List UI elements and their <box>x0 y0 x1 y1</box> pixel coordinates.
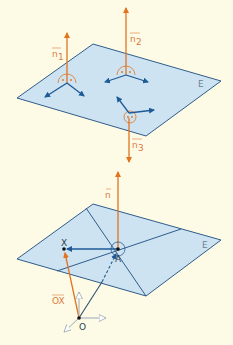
right-angle-dot <box>127 116 129 118</box>
point-x-label: X <box>61 238 67 248</box>
plane-label-e-bottom: E <box>202 240 208 250</box>
normal-n1-subscript: 1 <box>58 52 64 62</box>
top-figure: E n 1 n 2 <box>17 8 221 162</box>
normal-n3-label: n <box>132 140 138 150</box>
right-angle-dot <box>70 79 72 81</box>
normal-n2-subscript: 2 <box>136 37 142 47</box>
point-o-label: O <box>79 322 86 332</box>
diagram-svg: E n 1 n 2 <box>0 0 233 345</box>
normal-n1-label: n <box>52 49 58 59</box>
vector-ox-label: OX <box>52 296 65 306</box>
right-angle-dot <box>121 71 123 73</box>
right-angle-dot <box>131 116 133 118</box>
vector-oa-solid <box>79 282 102 318</box>
point-o <box>77 316 81 320</box>
plane-e-top <box>17 44 221 136</box>
normal-n2-label: n <box>130 34 136 44</box>
right-angle-dot <box>62 79 64 81</box>
normal-n-label: n <box>105 190 111 200</box>
point-a <box>116 247 120 251</box>
diagram-canvas: E n 1 n 2 <box>0 0 233 345</box>
right-angle-dot <box>129 71 131 73</box>
plane-label-e-top: E <box>198 79 204 89</box>
point-a-label: A <box>115 254 122 264</box>
normal-n3-subscript: 3 <box>138 143 144 153</box>
axis-x <box>64 318 79 332</box>
bottom-figure: E n OX X A O <box>17 172 221 332</box>
